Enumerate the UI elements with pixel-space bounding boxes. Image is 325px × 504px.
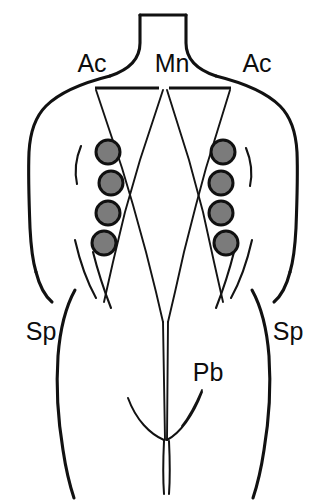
electrode-left-1[interactable] <box>96 140 120 164</box>
label-sp-right: Sp <box>273 317 304 345</box>
electrode-right-4[interactable] <box>214 231 238 255</box>
gluteal-cleft-left <box>163 441 164 494</box>
label-ac-right: Ac <box>242 49 271 77</box>
label-mn: Mn <box>155 49 190 77</box>
gluteal-cleft-right <box>169 441 170 494</box>
electrode-right-1[interactable] <box>211 140 235 164</box>
anatomical-figure-panel: Ac Mn Ac Sp Sp Pb <box>0 0 325 504</box>
label-sp-left: Sp <box>26 317 57 345</box>
electrode-left-2[interactable] <box>99 171 123 195</box>
electrode-left-3[interactable] <box>96 201 120 225</box>
midline-v-right <box>167 322 168 440</box>
electrode-right-2[interactable] <box>209 171 233 195</box>
electrode-left-4[interactable] <box>92 231 116 255</box>
label-pb: Pb <box>193 358 224 386</box>
electrode-right-3[interactable] <box>209 201 233 225</box>
back-anatomy-diagram: Ac Mn Ac Sp Sp Pb <box>0 0 325 504</box>
label-ac-left: Ac <box>77 49 106 77</box>
